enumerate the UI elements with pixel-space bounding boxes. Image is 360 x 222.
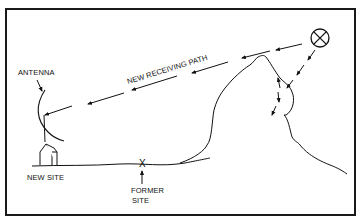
diagram-frame xyxy=(6,9,355,215)
blocked-path-arrows xyxy=(287,50,315,88)
label-former-site-line2: SITE xyxy=(132,196,149,205)
new-receiving-path-arrows xyxy=(45,44,302,115)
new-site-building xyxy=(40,144,57,165)
deflected-arrows xyxy=(272,78,280,115)
antenna-mast xyxy=(44,115,45,142)
transmitter-circled-x-icon xyxy=(311,29,329,47)
antenna-reflector xyxy=(38,90,64,141)
antenna-pointer xyxy=(37,80,42,91)
label-new-receiving-path: NEW RECEIVING PATH xyxy=(126,53,209,86)
former-site-marker: X xyxy=(139,158,146,169)
label-antenna: ANTENNA xyxy=(18,68,55,77)
label-new-site: NEW SITE xyxy=(27,173,64,182)
label-former-site-line1: FORMER xyxy=(131,186,165,195)
mountain-outline xyxy=(180,56,347,175)
diagram-canvas: NEW RECEIVING PATH ANTENNA NEW SITE X xyxy=(0,0,360,222)
